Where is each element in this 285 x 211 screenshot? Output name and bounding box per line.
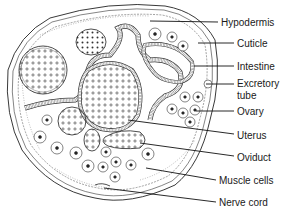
label-nerve-cord: Nerve cord — [219, 197, 268, 208]
label-muscle-cells: Muscle cells — [219, 175, 273, 186]
ovary-top — [76, 29, 106, 55]
label-hypodermis: Hypodermis — [221, 17, 274, 28]
uterus-section-small — [58, 107, 86, 135]
label-intestine: Intestine — [237, 61, 275, 72]
label-excretory: Excretory — [237, 78, 279, 89]
label-uterus: Uterus — [237, 130, 266, 141]
label-ovary: Ovary — [237, 106, 264, 117]
label-excretory-tube: tube — [237, 90, 256, 101]
label-cuticle: Cuticle — [237, 38, 268, 49]
egg-mass-left — [19, 46, 67, 94]
oviduct-small — [84, 129, 100, 151]
label-oviduct: Oviduct — [237, 152, 271, 163]
